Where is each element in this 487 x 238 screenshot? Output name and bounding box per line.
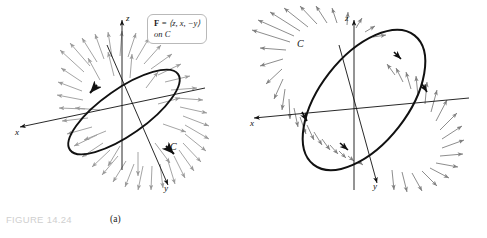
curve-label-c-a: C [170, 141, 177, 152]
axis-label-x-b: x [250, 118, 254, 128]
axis-y-a [107, 45, 168, 185]
axis-label-z-a: z [126, 13, 130, 23]
axis-label-x-a: x [15, 127, 19, 137]
panel-b: z x y C Projection of F on unit tangent … [244, 0, 487, 238]
axis-label-y-a: y [164, 183, 168, 193]
panel-a-graphic [0, 0, 244, 238]
sublabel-a: (a) [110, 214, 121, 224]
axes-a [20, 20, 205, 185]
axis-x-b [254, 98, 469, 118]
panel-b-graphic [244, 0, 487, 238]
panel-a: z x y C F = ⟨z, x, −y⟩ on C (a) [0, 0, 244, 238]
callout-field-a: F = ⟨z, x, −y⟩ on C [147, 14, 207, 44]
projection-vectors-b [252, 6, 464, 192]
axis-label-y-b: y [373, 181, 377, 191]
callout-a-line2: on C [154, 29, 200, 40]
axis-x-a [20, 88, 205, 127]
vector-field-a [57, 31, 209, 190]
callout-a-line1: F = ⟨z, x, −y⟩ [154, 18, 200, 29]
curve-label-c-b: C [297, 38, 304, 49]
curve-c-b [279, 8, 449, 191]
figure-caption: FIGURE 14.24 [6, 214, 72, 225]
axes-b [254, 20, 469, 190]
axis-label-z-b: z [345, 13, 349, 23]
callout-a-expression: = ⟨z, x, −y⟩ [159, 18, 200, 28]
figure-container: z x y C F = ⟨z, x, −y⟩ on C (a) [0, 0, 487, 238]
